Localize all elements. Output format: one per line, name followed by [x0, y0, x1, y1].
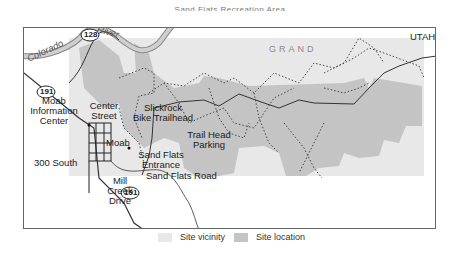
state-label: UTAH: [410, 31, 435, 42]
site-vicinity-swatch-icon: [158, 233, 172, 242]
legend-item-site-vicinity: Site vicinity: [158, 232, 225, 242]
map-legend: Site vicinity Site location: [0, 232, 460, 246]
mill-creek-drive-label: Mill Creek Drive: [104, 176, 136, 206]
trail-head-parking-label: Trail Head Parking: [182, 130, 236, 150]
site-location-swatch-icon: [234, 233, 248, 242]
300-south-label: 300 South: [34, 158, 77, 168]
sand-flats-entrance-label: Sand Flats Entrance: [136, 150, 186, 170]
center-street-label: Center Street: [84, 101, 124, 121]
county-label: GRAND: [269, 44, 317, 54]
slickrock-trailhead-label: Slickrock Bike Trailhead: [130, 103, 196, 123]
sand-flats-road-label: Sand Flats Road: [146, 171, 217, 181]
map-title: Sand Flats Recreation Area: [0, 3, 460, 11]
moab-info-center-label: Moab Information Center: [25, 96, 83, 126]
map-frame: UTAH GRAND Colorado River 128 191 191 Mo…: [23, 27, 436, 229]
info-center-marker: [88, 124, 91, 127]
moab-label: Moab: [106, 138, 130, 148]
highway-128-label: 128: [84, 30, 97, 40]
legend-item-site-location: Site location: [234, 232, 305, 242]
